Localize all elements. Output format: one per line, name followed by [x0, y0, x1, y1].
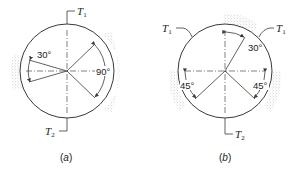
- shoe-top-b: [224, 14, 258, 33]
- tension-label-t1-a: T1: [77, 5, 87, 19]
- angle-label-30-a: 30°: [37, 49, 52, 60]
- wedge-line-left-lower-a: [29, 71, 67, 82]
- tension-label-t2-a: T2: [45, 125, 55, 139]
- brake-drum-diagrams: 30° 90° T1 T2 (a) 30°: [0, 0, 294, 172]
- tension-label-t1-right-b: T1: [276, 22, 286, 36]
- shoe-left-b: [169, 70, 186, 112]
- wedge-line-right-upper-a: [67, 44, 95, 71]
- shoe-right-b: [264, 70, 281, 112]
- caption-b: (b): [219, 152, 231, 163]
- line-30-b: [225, 37, 245, 71]
- tension-label-t1-left-b: T1: [162, 22, 172, 36]
- line-45-left-b: [195, 71, 225, 99]
- tension-label-t2-b: T2: [235, 128, 245, 142]
- angle-label-90-a: 90°: [96, 66, 111, 77]
- figure-b: 30° 45° 45° T1 T1 T2 (b): [162, 14, 286, 163]
- tension-leader-t1-right-b: [259, 28, 274, 37]
- figure-a: 30° 90° T1 T2 (a): [11, 5, 120, 163]
- angle-arc-30-b: [226, 32, 244, 37]
- caption-a: (a): [60, 152, 72, 163]
- tension-leader-t2-b: [225, 118, 233, 134]
- angle-label-45-right-b: 45°: [253, 80, 268, 91]
- wedge-line-left-upper-a: [29, 60, 67, 71]
- line-45-right-b: [225, 71, 255, 99]
- angle-label-30-b: 30°: [248, 42, 263, 53]
- wedge-line-right-lower-a: [67, 71, 95, 98]
- tension-leader-t1-left-b: [176, 28, 192, 37]
- tension-leader-t1-a: [67, 11, 75, 24]
- angle-label-45-left-b: 45°: [180, 80, 195, 91]
- tension-leader-t2-a: [59, 118, 67, 131]
